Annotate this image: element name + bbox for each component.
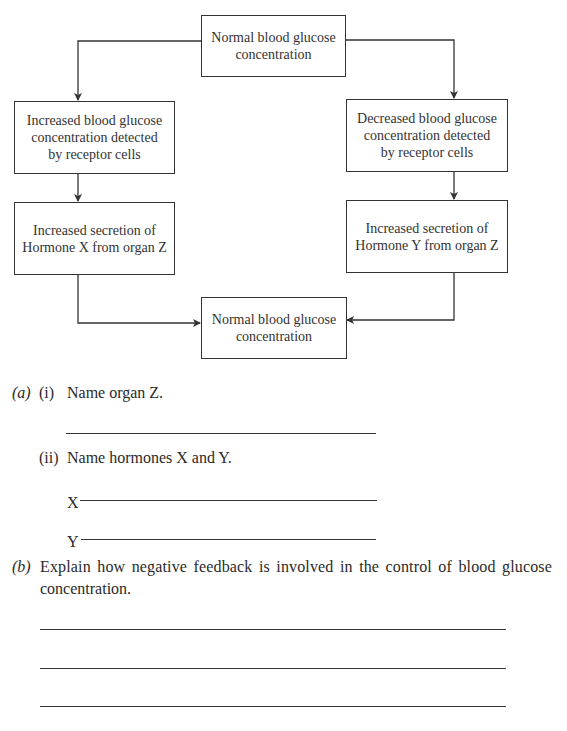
box-normal-glucose-bottom: Normal blood glucose concentration	[201, 297, 347, 359]
answer-line-organ-z[interactable]	[66, 433, 376, 434]
box-normal-glucose-top: Normal blood glucose concentration	[201, 15, 346, 77]
box-hormone-x-secretion: Increased secretion of Hormone X from or…	[14, 202, 175, 275]
question-a-ii-text: Name hormones X and Y.	[67, 449, 232, 467]
hormone-x-label: X	[67, 494, 79, 512]
flow-diagram: Normal blood glucose concentration Incre…	[0, 0, 567, 370]
question-b-text-line1: Explain how negative feedback is involve…	[40, 558, 552, 576]
hormone-y-label: Y	[67, 533, 79, 551]
answer-line-b-3[interactable]	[40, 706, 506, 707]
answer-line-hormone-y[interactable]	[81, 539, 376, 540]
answer-line-b-1[interactable]	[40, 629, 506, 630]
question-b-label: (b)	[12, 558, 31, 576]
question-a-i-text: Name organ Z.	[67, 384, 163, 402]
box-hormone-y-secretion: Increased secretion of Hormone Y from or…	[346, 200, 508, 273]
box-label: Normal blood glucose concentration	[211, 29, 335, 63]
box-decreased-glucose-detected: Decreased blood glucose concentration de…	[346, 99, 508, 172]
box-increased-glucose-detected: Increased blood glucose concentration de…	[14, 101, 175, 174]
box-label: Decreased blood glucose concentration de…	[357, 110, 497, 161]
box-label: Increased secretion of Hormone X from or…	[22, 222, 166, 256]
box-label: Increased secretion of Hormone Y from or…	[355, 220, 498, 254]
answer-line-hormone-x[interactable]	[80, 500, 377, 501]
question-a-label: (a)	[12, 384, 31, 402]
answer-line-b-2[interactable]	[40, 668, 506, 669]
question-a-i-number: (i)	[39, 384, 54, 402]
box-label: Normal blood glucose concentration	[212, 311, 336, 345]
box-label: Increased blood glucose concentration de…	[27, 112, 162, 163]
question-b-text-line2: concentration.	[40, 580, 131, 598]
question-a-ii-number: (ii)	[39, 449, 59, 467]
